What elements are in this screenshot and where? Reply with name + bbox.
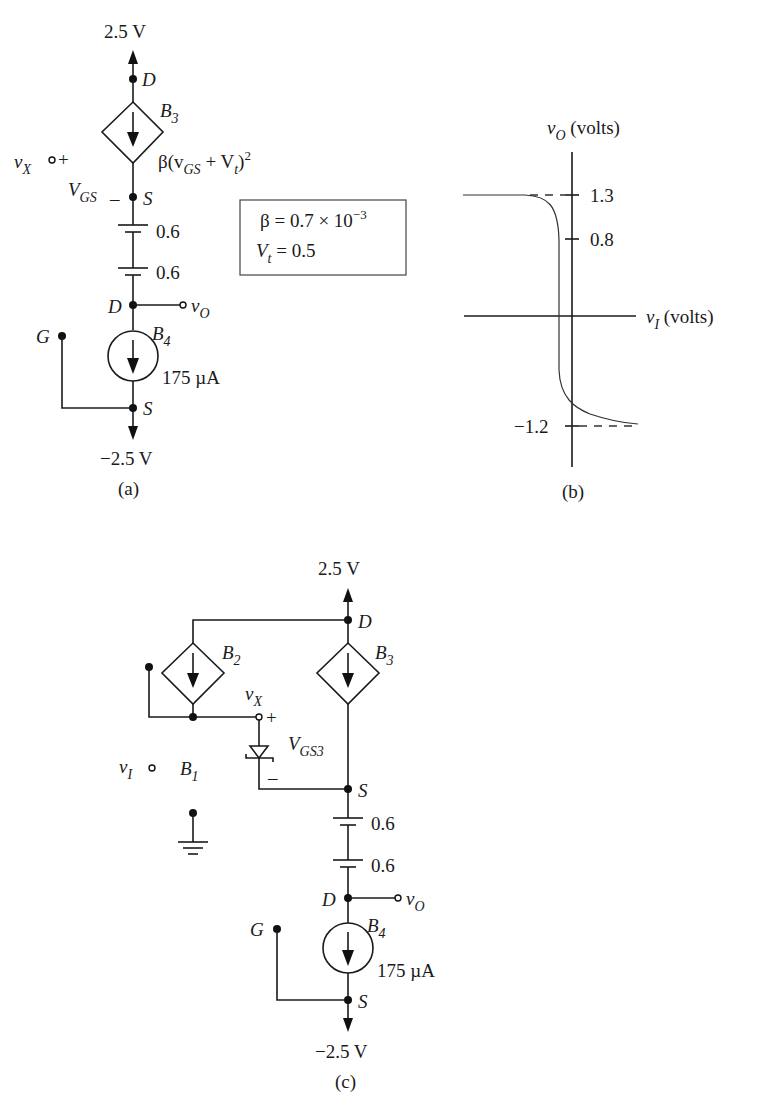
plus-sign: + [266, 707, 277, 728]
zener-diode-icon [250, 746, 268, 758]
node-d-bottom-label: D [321, 889, 336, 910]
params-box: β = 0.7 × 10−3 Vt = 0.5 [240, 200, 406, 275]
tick-label-1-3: 1.3 [590, 185, 614, 206]
node-s-mid-label: S [358, 780, 368, 801]
caption-c: (c) [335, 1071, 356, 1093]
node-g-label: G [36, 326, 50, 347]
arrow-up-icon [343, 588, 353, 602]
supply-bottom-label: −2.5 V [100, 448, 153, 469]
vgs-label: VGS [68, 179, 97, 205]
vgs3-label: VGS3 [288, 733, 324, 759]
node-d-top-label: D [357, 611, 372, 632]
wire [62, 336, 133, 408]
plus-sign: + [58, 149, 69, 170]
vt-value: Vt = 0.5 [256, 240, 315, 266]
supply-top-label: 2.5 V [104, 21, 146, 42]
b1-label: B1 [180, 758, 199, 784]
y-axis-label: vO (volts) [547, 117, 620, 143]
vx-terminal [256, 714, 262, 720]
panel-a-circuit: 2.5 V D B3 β(vGS + Vt)2 vX + VGS – S 0.6… [14, 21, 251, 500]
minus-sign: – [267, 767, 278, 788]
battery1-label: 0.6 [371, 813, 395, 834]
arrow-up-icon [128, 50, 138, 64]
b2-label: B2 [222, 642, 241, 668]
b3-expression: β(vGS + Vt)2 [158, 148, 251, 177]
wire [149, 667, 256, 717]
node-dot [344, 996, 352, 1004]
arrow-down-icon [342, 673, 354, 688]
node-d-top-label: D [141, 69, 156, 90]
caption-a: (a) [118, 478, 139, 500]
vx-label: vX [14, 151, 31, 177]
beta-value: β = 0.7 × 10−3 [260, 207, 367, 231]
tick-label-0-8: 0.8 [590, 229, 614, 250]
arrow-down-icon [343, 1018, 353, 1032]
node-s-mid-label: S [143, 188, 153, 209]
arrow-down-icon [128, 426, 138, 440]
node-dot [344, 785, 352, 793]
vo-terminal [395, 895, 401, 901]
b3-label: B3 [375, 642, 394, 668]
arrow-down-icon [127, 132, 139, 147]
panel-b-transfer-plot: vO (volts) vI (volts) 1.3 0.8 −1.2 (b) [463, 117, 713, 503]
battery2-label: 0.6 [156, 262, 180, 283]
caption-b: (b) [562, 481, 584, 503]
vx-label: vX [245, 683, 262, 709]
supply-top-label: 2.5 V [318, 558, 360, 579]
arrow-down-icon [127, 358, 139, 374]
wire [277, 929, 348, 1000]
vi-terminal [149, 765, 155, 771]
minus-sign: – [109, 188, 120, 209]
arrow-down-icon [187, 673, 199, 688]
b3-label: B3 [160, 100, 179, 126]
node-s-bottom-label: S [143, 398, 153, 419]
vo-label: vO [406, 888, 425, 914]
wire [193, 620, 348, 643]
vo-terminal [180, 302, 186, 308]
vo-label: vO [191, 295, 210, 321]
figure-canvas: 2.5 V D B3 β(vGS + Vt)2 vX + VGS – S 0.6… [0, 0, 764, 1110]
tick-label-neg-1-2: −1.2 [514, 416, 548, 437]
b4-current-label: 175 µA [162, 367, 220, 388]
arrow-down-icon [342, 950, 354, 966]
node-dot [189, 713, 197, 721]
node-g-label: G [250, 919, 264, 940]
battery2-label: 0.6 [371, 855, 395, 876]
node-dot [129, 404, 137, 412]
node-s-bottom-label: S [358, 991, 368, 1012]
panel-c-circuit: 2.5 V D B2 vX + VGS3 – vI B1 [119, 558, 435, 1093]
vi-label: vI [119, 756, 133, 782]
vx-terminal [49, 157, 55, 163]
b4-current-label: 175 µA [377, 960, 435, 981]
supply-bottom-label: −2.5 V [315, 1041, 368, 1062]
battery1-label: 0.6 [156, 221, 180, 242]
x-axis-label: vI (volts) [646, 306, 713, 332]
node-dot [129, 193, 137, 201]
node-d-bottom-label: D [107, 296, 122, 317]
